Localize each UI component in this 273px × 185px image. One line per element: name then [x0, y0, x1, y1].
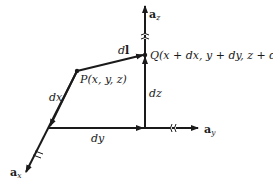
dy-label: dy: [91, 133, 104, 144]
dl-vector: [77, 55, 143, 71]
axis-label-y: ay: [204, 124, 215, 137]
dz-label: dz: [149, 88, 162, 99]
axis-label-z: az: [149, 9, 160, 22]
point-q: [143, 53, 147, 57]
point-p: [75, 69, 79, 73]
dx-label: dx: [49, 92, 62, 103]
dl-label: dl: [118, 45, 129, 56]
point-q-label: Q(x + dx, y + dy, z + dz): [150, 50, 273, 61]
axis-label-x: ax: [10, 167, 21, 180]
diagram-svg: [0, 0, 273, 185]
point-p-label: P(x, y, z): [80, 74, 127, 85]
diagram-canvas: az ay ax P(x, y, z) Q(x + dx, y + dy, z …: [0, 0, 273, 185]
